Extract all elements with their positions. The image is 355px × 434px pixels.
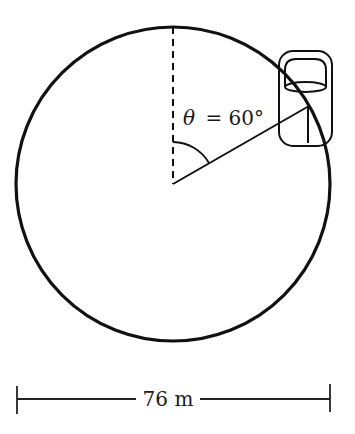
angle-label: θ = 60° (183, 106, 264, 130)
ferris-wheel-diagram: θ = 60° 76 m (0, 0, 355, 434)
diameter-label: 76 m (143, 387, 194, 411)
theta-symbol: θ (183, 106, 195, 130)
angle-arc (173, 142, 209, 163)
angle-value: = 60° (205, 106, 264, 130)
